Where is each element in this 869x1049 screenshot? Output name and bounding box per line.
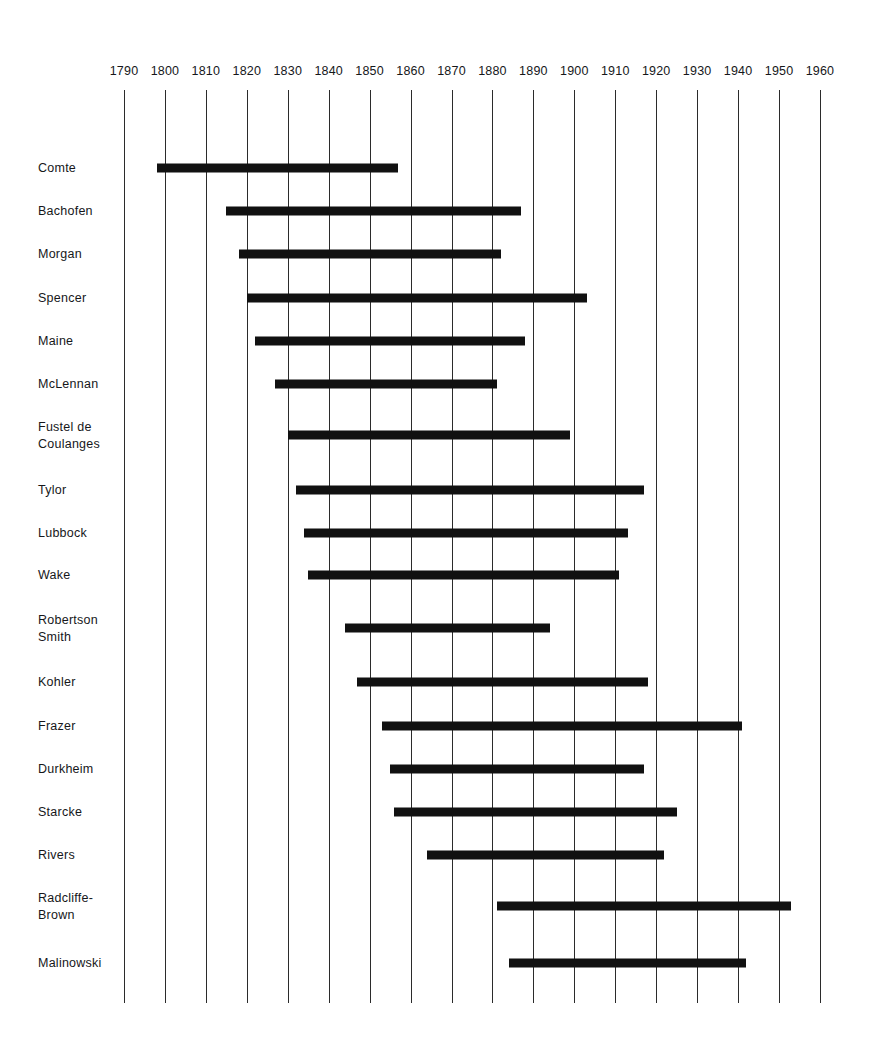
- row-label-morgan: Morgan: [38, 246, 82, 263]
- row-label-rivers: Rivers: [38, 847, 75, 864]
- lifespan-bar-kohler: [357, 678, 648, 687]
- lifespan-bar-maine: [255, 337, 525, 346]
- lifespan-bar-bachofen: [226, 207, 521, 216]
- row-label-mclennan: McLennan: [38, 376, 98, 393]
- lifespan-bar-starcke: [394, 808, 676, 817]
- row-label-comte: Comte: [38, 160, 76, 177]
- lifespan-bar-wake: [308, 571, 619, 580]
- row-label-durkheim: Durkheim: [38, 761, 94, 778]
- lifespan-bar-malinowski: [509, 959, 746, 968]
- row-label-kohler: Kohler: [38, 674, 76, 691]
- lifespan-bar-durkheim: [390, 765, 644, 774]
- lifespan-bar-morgan: [239, 250, 501, 259]
- row-label-wake: Wake: [38, 567, 71, 584]
- lifespan-bar-robertson-smith: [345, 624, 550, 633]
- lifespan-bar-comte: [157, 164, 399, 173]
- row-label-malinowski: Malinowski: [38, 955, 102, 972]
- row-label-starcke: Starcke: [38, 804, 82, 821]
- row-label-bachofen: Bachofen: [38, 203, 93, 220]
- lifespan-bar-rivers: [427, 851, 664, 860]
- lifespan-bar-lubbock: [304, 529, 627, 538]
- row-label-tylor: Tylor: [38, 482, 66, 499]
- lifespan-bar-frazer: [382, 722, 742, 731]
- row-label-robertson-smith: Robertson Smith: [38, 612, 98, 645]
- row-label-radcliffe-brown: Radcliffe- Brown: [38, 890, 93, 923]
- row-label-frazer: Frazer: [38, 718, 76, 735]
- timeline-chart: 1790180018101820183018401850186018701880…: [0, 0, 869, 1049]
- row-label-fustel-de-coulanges: Fustel de Coulanges: [38, 419, 100, 452]
- lifespan-bar-tylor: [296, 486, 644, 495]
- row-label-lubbock: Lubbock: [38, 525, 87, 542]
- timeline-rows: ComteBachofenMorganSpencerMaineMcLennanF…: [0, 0, 869, 1049]
- lifespan-bar-spencer: [247, 294, 587, 303]
- lifespan-bar-fustel-de-coulanges: [288, 431, 570, 440]
- row-label-spencer: Spencer: [38, 290, 86, 307]
- row-label-maine: Maine: [38, 333, 73, 350]
- lifespan-bar-mclennan: [275, 380, 496, 389]
- lifespan-bar-radcliffe-brown: [497, 902, 792, 911]
